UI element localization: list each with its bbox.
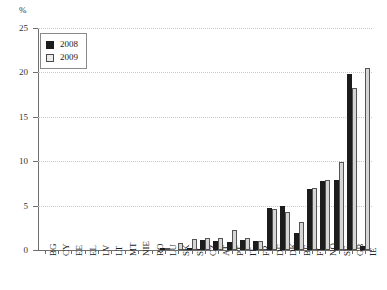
x-tick-mark: [192, 250, 193, 254]
bar-2009-IE: [365, 68, 370, 250]
x-tick-mark: [285, 250, 286, 254]
x-tick-label-NO: NO: [329, 243, 338, 256]
x-tick-mark: [325, 250, 326, 254]
bar-group: [265, 28, 278, 250]
x-tick-mark: [45, 250, 46, 254]
y-tick-label: 5: [4, 202, 28, 211]
x-tick-label-EE: EE: [75, 245, 84, 256]
chart-legend: 20082009: [40, 33, 87, 69]
x-tick-label-BE: BE: [303, 244, 312, 256]
bars-container: [38, 28, 372, 250]
x-tick-mark: [312, 250, 313, 254]
x-tick-mark: [272, 250, 273, 254]
legend-label: 2009: [60, 53, 78, 62]
legend-item-2008: 2008: [46, 38, 78, 51]
x-tick-label-EL: EL: [89, 245, 98, 256]
bar-group: [132, 28, 145, 250]
x-tick-mark: [71, 250, 72, 254]
x-tick-label-SK: SK: [182, 244, 191, 256]
x-tick-label-NIE: NIE: [142, 241, 151, 256]
legend-swatch-filled-black-square: [46, 41, 54, 49]
bar-group: [145, 28, 158, 250]
bar-group: [332, 28, 345, 250]
x-tick-mark: [98, 250, 99, 254]
x-tick-mark: [245, 250, 246, 254]
x-tick-mark: [258, 250, 259, 254]
bar-2009-FI: [312, 188, 317, 250]
x-tick-mark: [85, 250, 86, 254]
x-tick-label-LU: LU: [169, 244, 178, 256]
x-tick-mark: [152, 250, 153, 254]
x-tick-mark: [205, 250, 206, 254]
x-tick-mark: [125, 250, 126, 254]
y-tick-label: 15: [4, 113, 28, 122]
bar-group: [118, 28, 131, 250]
x-tick-mark: [218, 250, 219, 254]
x-tick-label-CZ: CZ: [209, 244, 218, 256]
x-tick-mark: [339, 250, 340, 254]
y-tick-label: 25: [4, 24, 28, 33]
bar-2009-SE: [339, 162, 344, 250]
y-axis-unit-label: %: [19, 6, 27, 15]
bar-group: [198, 28, 211, 250]
bar-group: [359, 28, 372, 250]
x-tick-label-DE: DE: [276, 244, 285, 256]
x-tick-label-LT: LT: [115, 246, 124, 256]
bar-group: [238, 28, 251, 250]
x-tick-label-GB: GB: [356, 243, 365, 256]
bar-group: [292, 28, 305, 250]
x-tick-label-LV: LV: [102, 245, 111, 256]
bar-group: [225, 28, 238, 250]
bar-group: [278, 28, 291, 250]
bar-group: [172, 28, 185, 250]
bar-group: [305, 28, 318, 250]
y-tick-label: 20: [4, 68, 28, 77]
bar-chart: % 2520151050 BGCYEEELLVLTMTNIEROLUSKSICZ…: [0, 0, 387, 290]
x-tick-label-MT: MT: [129, 243, 138, 257]
x-tick-mark: [58, 250, 59, 254]
bar-2009-GB: [352, 88, 357, 251]
bar-group: [158, 28, 171, 250]
x-tick-label-RO: RO: [156, 243, 165, 256]
x-tick-mark: [111, 250, 112, 254]
bar-group: [185, 28, 198, 250]
x-tick-label-FI: FI: [316, 248, 325, 256]
x-tick-label-PT: PT: [236, 245, 245, 256]
x-tick-mark: [165, 250, 166, 254]
y-tick-label: 10: [4, 157, 28, 166]
bar-group: [319, 28, 332, 250]
bar-group: [212, 28, 225, 250]
bar-group: [91, 28, 104, 250]
bar-2009-NO: [325, 180, 330, 250]
x-tick-label-BG: BG: [49, 243, 58, 256]
x-tick-label-SE: SE: [343, 245, 352, 256]
x-tick-label-FR: FR: [262, 245, 271, 256]
x-tick-label-IT: IT: [249, 248, 258, 257]
x-tick-label-DK: DK: [289, 243, 298, 256]
x-tick-mark: [178, 250, 179, 254]
x-tick-label-IE: IE: [369, 248, 378, 257]
x-tick-label-SI: SI: [196, 248, 205, 256]
bar-group: [345, 28, 358, 250]
x-tick-label-CY: CY: [62, 243, 71, 256]
x-tick-mark: [299, 250, 300, 254]
y-tick-label: 0: [4, 246, 28, 255]
y-tick-mark: [33, 250, 38, 251]
legend-swatch-open-light-square: [46, 54, 54, 62]
bar-group: [105, 28, 118, 250]
plot-area: [38, 28, 372, 250]
x-tick-mark: [352, 250, 353, 254]
legend-label: 2008: [60, 40, 78, 49]
x-tick-mark: [365, 250, 366, 254]
legend-item-2009: 2009: [46, 51, 78, 64]
x-tick-label-AT: AT: [222, 245, 231, 256]
x-tick-mark: [138, 250, 139, 254]
bar-group: [252, 28, 265, 250]
x-tick-mark: [232, 250, 233, 254]
